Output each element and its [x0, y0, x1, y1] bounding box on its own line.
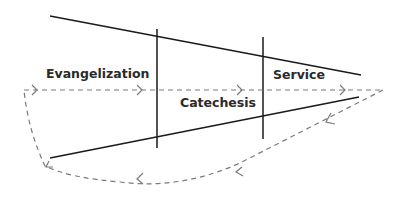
label-service: Service: [273, 67, 325, 82]
diagram-canvas: [0, 0, 405, 220]
label-evangelization: Evangelization: [46, 66, 149, 81]
label-catechesis: Catechesis: [180, 95, 256, 110]
arrow-down-left-icon: [236, 167, 243, 176]
arrow-right-icon: [237, 85, 242, 95]
arrow-left-icon: [137, 173, 143, 184]
arrow-up-left-icon: [46, 161, 53, 167]
arrow-right-icon: [137, 85, 142, 95]
